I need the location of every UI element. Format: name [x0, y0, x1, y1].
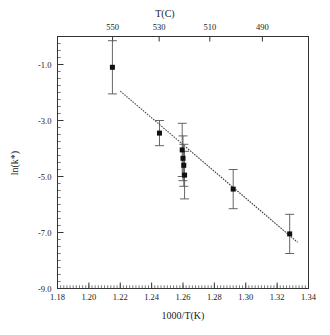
top-tick-label: 510: [203, 22, 216, 32]
y-tick-label: -1.0: [38, 60, 51, 70]
x-tick-label: 1.26: [176, 292, 191, 302]
figure-container: T(C) 550530510490 1.181.201.221.241.261.…: [0, 0, 330, 335]
y-tick-label: -7.0: [38, 228, 51, 238]
y-tick-label: -9.0: [38, 284, 51, 294]
x-tick-label: 1.20: [81, 292, 96, 302]
y-tick-label: -3.0: [38, 116, 51, 126]
x-tick-label: 1.32: [270, 292, 285, 302]
x-tick-label: 1.24: [144, 292, 160, 302]
x-tick-label: 1.30: [238, 292, 253, 302]
left-axis-title: ln(k*): [9, 151, 21, 175]
data-point-marker: [110, 65, 115, 70]
top-axis-title: T(C): [155, 8, 174, 20]
top-tick-label: 550: [106, 22, 119, 32]
x-tick-label: 1.34: [301, 292, 317, 302]
x-tick-label: 1.18: [50, 292, 65, 302]
data-point-marker: [231, 187, 236, 192]
top-tick-label: 530: [153, 22, 166, 32]
data-point-marker: [181, 163, 186, 168]
data-point-marker: [180, 147, 185, 152]
bottom-axis-title: 1000/T(K): [162, 310, 205, 322]
data-point-marker: [181, 156, 186, 161]
data-point-marker: [157, 131, 162, 136]
y-tick-label: -5.0: [38, 172, 51, 182]
top-tick-label: 490: [256, 22, 269, 32]
x-tick-label: 1.22: [113, 292, 128, 302]
arrhenius-scatter-plot: T(C) 550530510490 1.181.201.221.241.261.…: [0, 0, 330, 335]
x-tick-label: 1.28: [207, 292, 222, 302]
data-point-marker: [182, 173, 187, 178]
data-point-marker: [287, 231, 292, 236]
